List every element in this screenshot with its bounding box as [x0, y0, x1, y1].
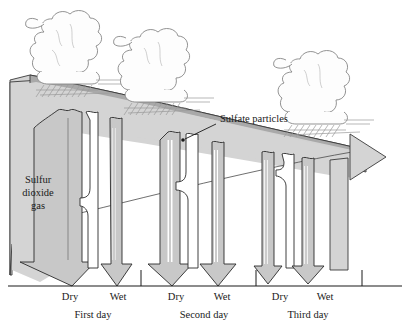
deposition-arrow-day2-dry [148, 131, 192, 286]
day-label-second: Second day [180, 309, 229, 320]
cumulonimbus-cloud-3 [274, 51, 374, 137]
deposition-label-day1-dry: Dry [62, 291, 79, 302]
source-label-dioxide: dioxide [22, 187, 54, 198]
day-label-first: First day [74, 309, 112, 320]
deposition-arrow-day3-wet [292, 157, 324, 284]
deposition-label-day3-wet: Wet [317, 291, 334, 302]
source-label-sulfur: Sulfur [25, 174, 52, 185]
plume-right-stem [330, 158, 348, 270]
deposition-channel-day3-a [276, 153, 294, 268]
deposition-arrow-day2-wet [200, 141, 236, 286]
deposition-channel-day1-a [80, 111, 98, 268]
deposition-label-day2-wet: Wet [214, 291, 231, 302]
source-label-gas: gas [31, 200, 45, 211]
deposition-label-day2-dry: Dry [168, 291, 185, 302]
day-label-third: Third day [287, 309, 329, 320]
callout-target-dot [181, 138, 185, 142]
sulfate-particles-label: Sulfate particles [220, 113, 288, 124]
deposition-label-day1-wet: Wet [110, 291, 127, 302]
plume-right-arrowhead [350, 134, 386, 180]
acid-deposition-diagram: Sulfur dioxide gas Sulfur dioxide gas Su… [0, 0, 410, 325]
deposition-label-day3-dry: Dry [272, 291, 289, 302]
